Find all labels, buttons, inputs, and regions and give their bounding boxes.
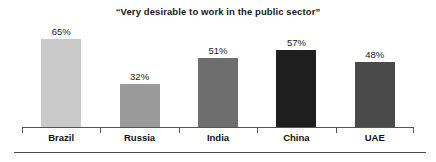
plot-area: 65% 32% 51% 57% 48% [22,24,414,128]
bar-india [198,58,238,128]
bar-chart-figure: “Very desirable to work in the public se… [0,0,436,162]
bar-value-russia: 32% [100,71,178,82]
bar-brazil [41,39,81,128]
category-label-uae: UAE [336,132,414,143]
bar-value-brazil: 65% [22,26,100,37]
bar-slot-china: 57% [257,24,335,128]
category-label-brazil: Brazil [22,132,100,143]
bar-slot-russia: 32% [100,24,178,128]
category-label-india: India [179,132,257,143]
category-label-row: Brazil Russia India China UAE [22,132,414,146]
bar-value-india: 51% [179,45,257,56]
chart-title: “Very desirable to work in the public se… [0,6,436,17]
category-label-china: China [257,132,335,143]
bar-russia [120,84,160,128]
bar-uae [355,62,395,128]
bar-value-china: 57% [257,37,335,48]
bottom-divider-rule [14,152,426,153]
category-label-russia: Russia [100,132,178,143]
x-axis-line [22,127,414,128]
bar-value-uae: 48% [336,49,414,60]
bar-slot-india: 51% [179,24,257,128]
bar-slot-brazil: 65% [22,24,100,128]
bar-china [276,50,316,128]
bar-slot-uae: 48% [336,24,414,128]
